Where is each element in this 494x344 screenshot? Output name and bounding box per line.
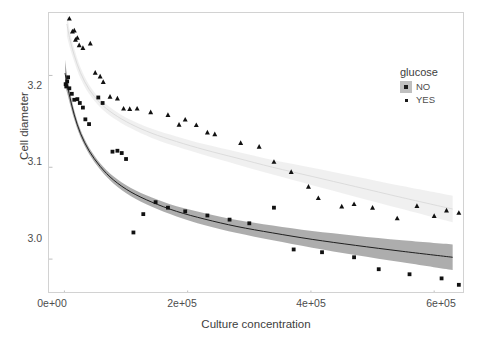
y-axis-title: Cell diameter [18, 36, 30, 216]
x-tick-label-6e05: 6e+05 [411, 297, 471, 309]
x-tick-label-4e05: 4e+05 [281, 297, 341, 309]
legend: glucose NO YES [400, 66, 486, 106]
x-tick-label-2e05: 2e+05 [152, 297, 212, 309]
legend-item-no[interactable]: NO [400, 81, 486, 93]
legend-label-no: NO [416, 81, 430, 93]
x-tick-label-0e00: 0e+00 [22, 297, 82, 309]
legend-key-yes-icon [400, 94, 412, 106]
plot-panel [48, 12, 464, 293]
legend-key-no-icon [400, 81, 412, 93]
legend-item-yes[interactable]: YES [400, 94, 486, 106]
legend-title: glucose [400, 66, 486, 78]
legend-label-yes: YES [416, 94, 435, 106]
y-tick-label-3.0: 3.0 [2, 232, 42, 244]
square-marker-icon [404, 85, 408, 89]
plot-canvas [49, 13, 464, 293]
chart-figure: 3.2 3.1 3.0 0e+00 2e+05 4e+05 6e+05 Cell… [0, 0, 494, 344]
x-axis-title: Culture concentration [48, 318, 464, 330]
triangle-marker-icon [405, 99, 408, 102]
